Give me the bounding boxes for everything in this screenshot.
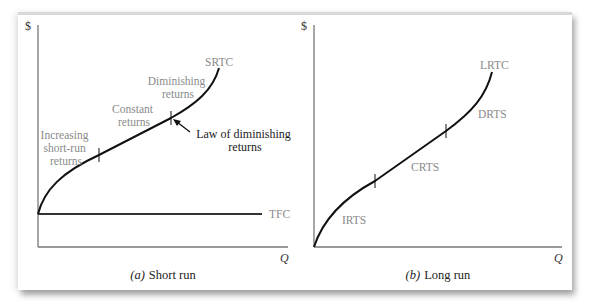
srtc-label: SRTC <box>205 56 233 68</box>
y-axis-label: $ <box>301 19 307 33</box>
law-annotation: Law of diminishing returns <box>196 127 294 154</box>
lrtc-curve <box>314 72 492 247</box>
lrtc-label: LRTC <box>480 59 509 71</box>
y-axis-label: $ <box>25 19 31 33</box>
region-crts-label: CRTS <box>411 161 439 173</box>
x-axis-label: Q <box>554 251 563 265</box>
region-diminishing-label: Diminishing returns <box>148 75 208 100</box>
caption-long-run: (b)Long run <box>406 268 472 282</box>
caption-short-run: (a)Short run <box>130 268 196 282</box>
region-drts-label: DRTS <box>478 108 507 120</box>
x-axis-label: Q <box>280 251 289 265</box>
panel-short-run: $ Q TFC SRTC Diminishing returns Constan… <box>25 19 294 282</box>
figure-canvas: $ Q TFC SRTC Diminishing returns Constan… <box>0 0 590 305</box>
region-irts-label: IRTS <box>342 214 366 226</box>
panel-long-run: $ Q LRTC DRTS CRTS IRTS (b)Long run <box>301 19 563 282</box>
region-constant-label: Constant returns <box>112 103 156 128</box>
tfc-label: TFC <box>269 208 290 220</box>
region-increasing-label: Increasing short-run returns <box>41 129 92 167</box>
